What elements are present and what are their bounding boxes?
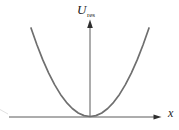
x-axis-label: x — [168, 107, 173, 119]
left-edge-artifact — [0, 110, 8, 115]
y-axis-arrowhead — [87, 20, 93, 29]
y-axis-label-base: U — [77, 2, 86, 17]
potential-energy-figure: Ures x — [0, 0, 179, 130]
plot-canvas — [0, 0, 179, 130]
x-axis-arrowhead — [154, 114, 162, 119]
y-axis-label: Ures — [77, 3, 95, 16]
y-axis-label-subscript: res — [87, 11, 95, 19]
